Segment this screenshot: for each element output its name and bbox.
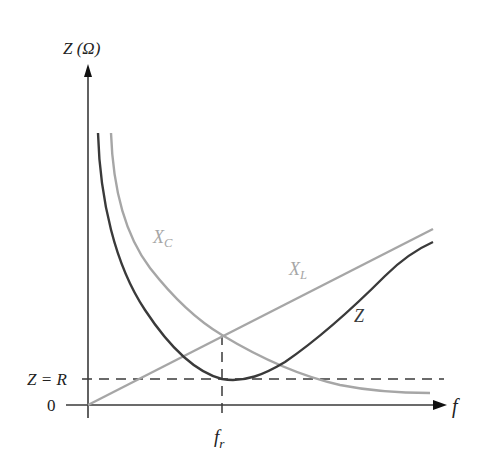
y-axis-label: Z (Ω) (63, 40, 100, 57)
z-curve (98, 133, 433, 380)
resonant-frequency-label: fr (214, 427, 224, 450)
z-equals-r-label: Z = R (27, 371, 67, 388)
xc-curve (111, 133, 430, 393)
x-axis-label: f (452, 396, 458, 416)
zero-tick-label: 0 (47, 397, 56, 414)
y-axis-arrow-icon (84, 64, 92, 77)
xl-label: XL (289, 260, 307, 282)
xc-label: XC (153, 228, 172, 250)
z-curve-label: Z (354, 307, 364, 325)
x-axis-arrow-icon (433, 400, 447, 410)
impedance-vs-frequency-chart (0, 0, 489, 461)
